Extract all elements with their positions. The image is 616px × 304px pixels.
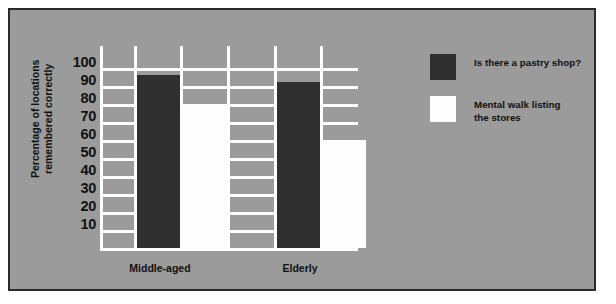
- y-tick-40: 40: [62, 163, 96, 178]
- y-axis-title: Percentage of locations remembered corre…: [29, 39, 55, 199]
- gridline-30-a: [100, 194, 137, 197]
- y-tick-80: 80: [62, 91, 96, 106]
- gridline-20-b: [227, 212, 277, 215]
- y-tick-60: 60: [62, 127, 96, 142]
- grid-rail-0: [100, 46, 103, 248]
- gridline-80-a: [100, 104, 137, 107]
- gridline-20-a: [100, 212, 137, 215]
- y-tick-100: 100: [62, 55, 96, 70]
- y-axis-tick-labels: 100 90 80 70 60 50 40 30 20 10: [56, 46, 96, 256]
- y-tick-50: 50: [62, 145, 96, 160]
- gridline-90-a: [100, 86, 137, 89]
- legend-label-mental-walk: Mental walk listing the stores: [474, 99, 604, 124]
- y-tick-20: 20: [62, 199, 96, 214]
- legend-label-pastry-shop: Is there a pastry shop?: [474, 57, 604, 70]
- y-tick-30: 30: [62, 181, 96, 196]
- y-tick-70: 70: [62, 109, 96, 124]
- legend-swatch-pastry-shop: [430, 54, 456, 80]
- bar-elderly-mental-walk: [323, 140, 366, 248]
- gridline-50-b: [227, 158, 277, 161]
- bar-elderly-pastry-shop: [277, 82, 320, 248]
- y-tick-10: 10: [62, 217, 96, 232]
- bar-middle-aged-pastry-shop: [137, 75, 180, 248]
- y-tick-90: 90: [62, 73, 96, 88]
- bar-middle-aged-mental-walk: [183, 106, 227, 248]
- gridline-60-a: [100, 140, 137, 143]
- gridline-40-a: [100, 176, 137, 179]
- gridline-70-a: [100, 122, 137, 125]
- plot-area: [94, 46, 366, 256]
- gridline-10-b: [227, 230, 277, 233]
- gridline-90-b: [180, 86, 358, 89]
- gridline-40-b: [227, 176, 277, 179]
- gridline-30-b: [227, 194, 277, 197]
- grid-rail-3: [227, 46, 230, 248]
- gridline-100: [100, 68, 358, 71]
- legend-swatch-mental-walk: [430, 96, 456, 122]
- x-axis-baseline: [100, 248, 358, 251]
- x-tick-middle-aged: Middle-aged: [100, 262, 220, 274]
- gridline-10-a: [100, 230, 137, 233]
- gridline-50-a: [100, 158, 137, 161]
- chart-figure: Percentage of locations remembered corre…: [8, 8, 596, 291]
- x-tick-elderly: Elderly: [240, 262, 360, 274]
